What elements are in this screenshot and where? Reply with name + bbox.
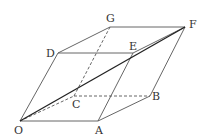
edge-CG-hidden [74,27,110,96]
edge-AE [98,53,133,121]
parallelepiped-diagram: O A B C D E F G [0,0,207,140]
label-A: A [94,124,104,137]
label-O: O [14,124,23,137]
label-C: C [72,98,80,111]
edge-AB [98,96,150,121]
label-G: G [106,12,115,25]
label-F: F [189,18,197,31]
label-E: E [129,40,137,53]
label-D: D [46,47,55,60]
edge-DG [58,27,110,53]
label-B: B [152,90,160,103]
edge-OC-hidden [20,96,74,121]
